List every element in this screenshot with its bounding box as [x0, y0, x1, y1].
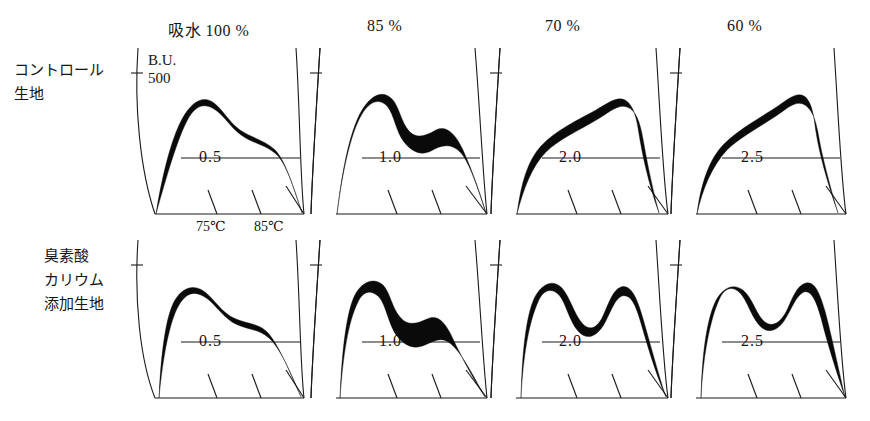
panel-right-edge-r1c3 [656, 48, 668, 214]
consistency-band-r2c2 [340, 281, 485, 398]
y-axis-curve-r2c4 [671, 240, 680, 398]
consistency-band-r1c3 [517, 99, 659, 214]
y-axis-curve-r2c2 [311, 240, 320, 398]
panel-right-edge-r1c1 [296, 48, 304, 214]
panel-right-edge-r1c2 [475, 48, 487, 214]
x-axis-tick-75c-r2c3 [568, 374, 577, 398]
consistency-band-r1c2 [337, 94, 486, 214]
farinograph-figure: 吸水 100 % 85 % 70 % 60 % コントロール 生地 臭素酸 カリ… [0, 0, 870, 421]
panel-r1c2 [310, 48, 500, 214]
x-axis-tick-end-r2c2 [466, 370, 487, 398]
x-axis-tick-85c-r2c4 [792, 374, 801, 398]
panel-right-edge-r2c1 [296, 240, 304, 398]
consistency-band-r2c3 [521, 283, 666, 398]
panel-r1c4 [670, 48, 846, 214]
x-axis-tick-75c-r2c4 [748, 374, 757, 398]
panel-right-edge-r2c2 [475, 240, 487, 398]
consistency-band-r2c1 [159, 287, 301, 398]
x-axis-tick-75c-r1c4 [748, 190, 757, 214]
x-axis-tick-85c-r1c4 [792, 190, 801, 214]
panel-right-edge-r1c4 [834, 48, 846, 214]
consistency-band-r1c4 [697, 95, 838, 214]
panel-r1c3 [490, 48, 680, 214]
panel-r1c1 [131, 48, 320, 214]
x-axis-tick-85c-r2c2 [432, 374, 441, 398]
panel-r2c4 [670, 240, 846, 398]
x-axis-tick-75c-r2c2 [388, 374, 397, 398]
panel-r2c3 [490, 240, 680, 398]
panel-r2c2 [310, 240, 500, 398]
y-axis-curve-r2c3 [491, 240, 500, 398]
panel-graphics-layer [0, 0, 870, 421]
y-axis-curve-r2c1 [137, 240, 155, 398]
consistency-band-r2c4 [701, 283, 845, 398]
consistency-band-r1c1 [156, 99, 302, 214]
x-axis-tick-85c-r1c3 [612, 190, 621, 214]
x-axis-tick-75c-r1c1 [208, 190, 217, 214]
panel-r2c1 [131, 240, 320, 398]
x-axis-tick-75c-r1c3 [568, 190, 577, 214]
x-axis-tick-end-r1c2 [466, 186, 487, 214]
x-axis-tick-85c-r2c3 [612, 374, 621, 398]
x-axis-tick-75c-r1c2 [388, 190, 397, 214]
x-axis-tick-85c-r1c2 [432, 190, 441, 214]
x-axis-tick-85c-r1c1 [252, 190, 261, 214]
x-axis-tick-end-r1c1 [286, 186, 304, 214]
x-axis-tick-75c-r2c1 [208, 374, 217, 398]
x-axis-tick-85c-r2c1 [252, 374, 261, 398]
